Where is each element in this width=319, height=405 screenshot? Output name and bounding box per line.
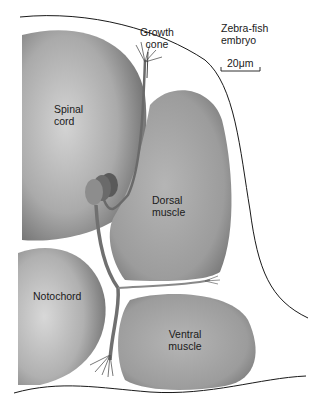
ventral-muscle-label: Ventral muscle [160,328,210,352]
scale-bar-label: 20μm [227,57,253,69]
ventral-muscle-label-line2: muscle [160,340,210,352]
growth-cone-label: Growth cone [135,26,179,50]
notochord-shape [18,248,106,385]
growth-cone-ventral [90,355,113,377]
spinal-cord-label: Spinal cord [54,103,83,127]
organism-label-line2: embryo [221,34,268,46]
neuron-body-1 [85,179,103,205]
growth-cone-label-line1: Growth [135,26,179,38]
growth-cone-lateral [205,276,220,284]
spinal-cord-label-line1: Spinal [54,103,83,115]
growth-cone-label-line2: cone [135,38,179,50]
organism-label: Zebra-fish embryo [221,22,268,46]
notochord-label: Notochord [33,290,81,302]
organism-label-line1: Zebra-fish [221,22,268,34]
spinal-cord-label-line2: cord [54,115,83,127]
growth-cone-pointer [147,52,148,78]
dorsal-muscle-label: Dorsal muscle [152,194,185,218]
dorsal-muscle-label-line2: muscle [152,206,185,218]
ventral-muscle-label-line1: Ventral [160,328,210,340]
axon-lateral [118,280,210,288]
dorsal-muscle-label-line1: Dorsal [152,194,185,206]
